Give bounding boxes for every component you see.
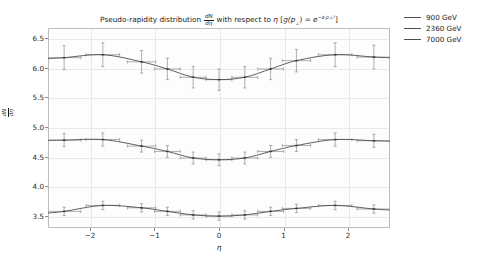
chart-title: Pseudo-rapidity distribution dN dη with … xyxy=(48,14,390,26)
legend-swatch-icon xyxy=(404,28,421,29)
y-axis-label-denominator: dη xyxy=(9,108,15,118)
y-tick-label: 5.5 xyxy=(20,93,44,102)
y-axis-ticks: 3.54.04.55.05.56.06.5 xyxy=(18,28,44,228)
x-tick-mark xyxy=(348,228,349,231)
gridline-horizontal xyxy=(49,158,389,159)
y-tick-mark xyxy=(45,216,48,217)
legend-label: 7000 GeV xyxy=(426,35,462,44)
y-tick-label: 4.0 xyxy=(20,182,44,191)
x-tick-mark xyxy=(154,228,155,231)
x-tick-label: −2 xyxy=(85,231,96,240)
y-tick-mark xyxy=(45,127,48,128)
legend-swatch-icon xyxy=(404,39,421,40)
x-tick-label: 1 xyxy=(281,231,286,240)
y-tick-mark xyxy=(45,186,48,187)
y-tick-label: 6.0 xyxy=(20,63,44,72)
plot-area xyxy=(48,28,390,228)
gridline-horizontal xyxy=(49,187,389,188)
chart-title-lead: Pseudo-rapidity distribution xyxy=(100,15,201,24)
gridline-vertical xyxy=(285,29,286,227)
y-tick-mark xyxy=(45,68,48,69)
gridline-horizontal xyxy=(49,217,389,218)
y-tick-label: 5.0 xyxy=(20,123,44,132)
x-tick-mark xyxy=(90,228,91,231)
x-tick-mark xyxy=(284,228,285,231)
x-tick-label: 0 xyxy=(217,231,222,240)
chart-title-bracket-close: ] xyxy=(335,15,338,24)
chart-title-eta: η xyxy=(273,15,278,24)
y-axis-label: dN dη xyxy=(2,107,14,118)
gridline-horizontal xyxy=(49,39,389,40)
x-tick-label: −1 xyxy=(149,231,160,240)
y-tick-mark xyxy=(45,97,48,98)
x-axis-ticks: −2−1012 xyxy=(0,231,498,243)
chart-title-gfn-close: ) = xyxy=(299,15,310,24)
legend-item-900-gev[interactable]: 900 GeV xyxy=(404,12,492,23)
chart-title-mid: with respect to xyxy=(216,15,271,24)
chart-legend: 900 GeV 2360 GeV 7000 GeV xyxy=(404,10,492,47)
chart-title-fraction: dN dη xyxy=(204,14,214,26)
chart-title-fraction-denominator: dη xyxy=(204,21,214,27)
y-tick-label: 6.5 xyxy=(20,34,44,43)
gridline-horizontal xyxy=(49,69,389,70)
x-axis-label: η xyxy=(48,243,390,252)
chart-title-exp-superscript: −α′p⊥² xyxy=(318,15,335,20)
gridline-horizontal xyxy=(49,98,389,99)
gridline-vertical xyxy=(155,29,156,227)
gridline-horizontal xyxy=(49,128,389,129)
x-tick-label: 2 xyxy=(346,231,351,240)
legend-swatch-icon xyxy=(404,17,421,18)
chart-title-gfn: g(p xyxy=(283,15,295,24)
legend-item-7000-gev[interactable]: 7000 GeV xyxy=(404,34,492,45)
y-tick-label: 3.5 xyxy=(20,212,44,221)
y-tick-mark xyxy=(45,157,48,158)
gridline-vertical xyxy=(91,29,92,227)
gridline-vertical xyxy=(220,29,221,227)
y-axis-label-fraction: dN dη xyxy=(2,108,14,118)
y-tick-mark xyxy=(45,38,48,39)
gridline-vertical xyxy=(349,29,350,227)
y-tick-label: 4.5 xyxy=(20,152,44,161)
legend-label: 2360 GeV xyxy=(426,24,462,33)
legend-item-2360-gev[interactable]: 2360 GeV xyxy=(404,23,492,34)
x-tick-mark xyxy=(219,228,220,231)
legend-label: 900 GeV xyxy=(426,13,457,22)
chart-figure: Pseudo-rapidity distribution dN dη with … xyxy=(0,0,498,276)
